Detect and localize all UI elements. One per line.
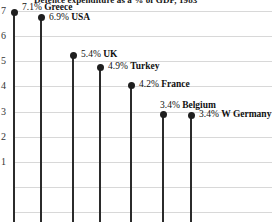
data-label-value: 3.4% bbox=[160, 100, 182, 110]
data-point-w-germany[interactable] bbox=[188, 112, 195, 119]
data-label-greece: 7.1% Greece bbox=[22, 2, 72, 12]
data-label-usa: 6.9% USA bbox=[49, 12, 90, 22]
data-point-turkey[interactable] bbox=[97, 64, 104, 71]
stem-turkey bbox=[99, 67, 101, 222]
data-label-turkey: 4.9% Turkey bbox=[108, 61, 159, 71]
y-axis-tick-label: 3 bbox=[1, 107, 13, 117]
data-point-greece[interactable] bbox=[11, 9, 18, 16]
data-label-value: 3.4% bbox=[199, 109, 221, 119]
stem-belgium bbox=[162, 114, 164, 222]
gridline bbox=[14, 162, 272, 163]
y-axis-tick-label: 5 bbox=[1, 56, 13, 66]
data-point-uk[interactable] bbox=[70, 52, 77, 59]
data-label-value: 7.1% bbox=[22, 2, 44, 12]
gridline bbox=[14, 187, 272, 188]
gridline bbox=[14, 36, 272, 37]
data-label-value: 4.9% bbox=[108, 61, 130, 71]
stem-uk bbox=[72, 55, 74, 222]
data-label-category: Greece bbox=[44, 2, 72, 12]
data-label-france: 4.2% France bbox=[139, 79, 190, 89]
data-label-value: 5.4% bbox=[81, 49, 103, 59]
y-axis-tick-label: 2 bbox=[1, 132, 13, 142]
data-label-value: 6.9% bbox=[49, 12, 71, 22]
data-point-france[interactable] bbox=[128, 82, 135, 89]
y-axis-tick-label: 6 bbox=[1, 31, 13, 41]
data-point-belgium[interactable] bbox=[160, 111, 167, 118]
data-label-w-germany: 3.4% W Germany bbox=[199, 109, 271, 119]
data-point-usa[interactable] bbox=[38, 14, 45, 21]
data-label-category: France bbox=[161, 79, 190, 89]
data-label-category: W Germany bbox=[221, 109, 271, 119]
gridline bbox=[14, 212, 272, 213]
y-axis-tick-label: 1 bbox=[1, 157, 13, 167]
data-label-category: UK bbox=[103, 49, 117, 59]
stem-france bbox=[130, 85, 132, 222]
stem-greece bbox=[13, 12, 15, 222]
chart-container: Defence expenditure as a % of GDP, 1983 … bbox=[0, 0, 272, 222]
data-label-category: USA bbox=[71, 12, 90, 22]
data-label-value: 4.2% bbox=[139, 79, 161, 89]
y-axis-tick-label: 4 bbox=[1, 81, 13, 91]
gridline bbox=[14, 137, 272, 138]
data-label-uk: 5.4% UK bbox=[81, 49, 117, 59]
stem-w-germany bbox=[190, 115, 192, 222]
data-label-category: Turkey bbox=[130, 61, 159, 71]
stem-usa bbox=[40, 17, 42, 222]
